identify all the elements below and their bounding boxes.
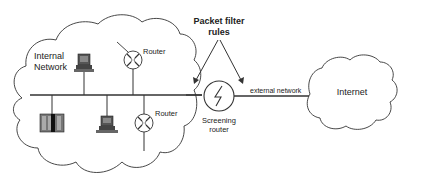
workstation-top[interactable] bbox=[74, 54, 94, 95]
internal-network-cloud bbox=[13, 15, 200, 173]
screening-router[interactable] bbox=[204, 81, 234, 111]
internal-network-label-line2: Network bbox=[34, 62, 68, 72]
external-network-label: external network bbox=[250, 87, 302, 94]
packet-filter-label-line1: Packet filter bbox=[193, 16, 245, 26]
workstation-bottom[interactable] bbox=[96, 95, 118, 133]
router-top[interactable] bbox=[117, 42, 142, 95]
screening-router-label-line2: router bbox=[209, 125, 229, 134]
router-top-label: Router bbox=[143, 47, 166, 56]
network-diagram: Router Internal Network Router Screening… bbox=[0, 0, 429, 189]
packet-filter-label-line2: rules bbox=[208, 27, 230, 37]
server[interactable] bbox=[40, 95, 64, 132]
internet-label: Internet bbox=[337, 87, 368, 97]
internal-network-label-line1: Internal bbox=[34, 51, 64, 61]
screening-router-label-line1: Screening bbox=[202, 116, 236, 125]
router-bottom[interactable] bbox=[135, 95, 153, 151]
router-bottom-label: Router bbox=[155, 109, 178, 118]
